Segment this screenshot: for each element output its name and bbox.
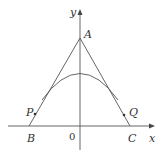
point-Q-label: Q: [129, 106, 138, 119]
y-axis-arrow-icon: [78, 9, 83, 15]
point-P-label: P: [25, 106, 34, 119]
tangent-line-AB: [29, 38, 80, 126]
point-B-label: B: [26, 132, 35, 145]
y-axis-label: y: [69, 6, 77, 19]
parabola-tangent-diagram: y x 0 A B C P Q: [0, 0, 160, 155]
point-P-marker: [34, 113, 37, 116]
point-A-label: A: [83, 28, 92, 41]
x-axis-arrow-icon: [149, 124, 155, 129]
x-axis-label: x: [149, 132, 156, 145]
tangent-line-AC: [80, 38, 130, 126]
point-C-label: C: [128, 132, 137, 145]
point-Q-marker: [123, 114, 126, 117]
origin-label: 0: [69, 131, 75, 142]
